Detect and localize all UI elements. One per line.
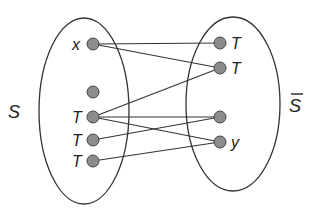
node-right-4-label: y [230,134,240,151]
edge-L5-R4 [93,142,220,161]
node-right-4 [214,136,226,148]
node-right-1-label: T [231,35,242,52]
node-left-1-label: x [71,36,81,53]
node-left-3-label: T [72,109,83,126]
node-right-3 [214,111,226,123]
node-left-5 [87,155,99,167]
node-left-2 [87,86,99,98]
set-s-ellipse [39,18,129,204]
node-left-3 [87,111,99,123]
node-right-2-label: T [231,60,242,77]
set-s-label: S [8,102,20,122]
node-left-4-label: T [72,132,83,149]
bipartite-cut-diagram: SSxTTTTTy [0,0,312,211]
edge-L3-R2 [93,68,220,117]
node-left-1 [87,38,99,50]
node-right-2 [214,62,226,74]
set-s-complement-label: S [289,96,301,116]
node-right-1 [214,37,226,49]
node-left-5-label: T [72,153,83,170]
node-left-4 [87,134,99,146]
edge-L1-R1 [93,43,220,44]
edge-L1-R2 [93,44,220,68]
